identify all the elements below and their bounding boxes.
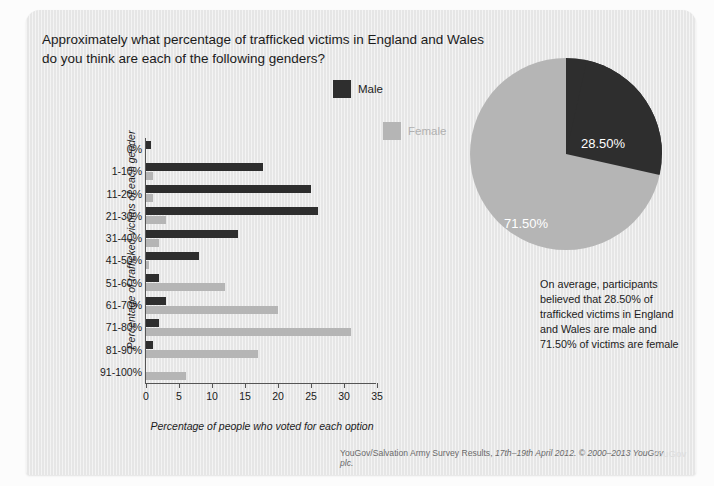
bar-male: [146, 163, 263, 171]
note-line-3: trafficked victims in England: [540, 307, 700, 322]
legend-swatch-male-icon: [333, 80, 351, 98]
pie-label-male: 28.50%: [581, 136, 625, 151]
x-axis-tick-label: 15: [239, 390, 251, 402]
y-axis-tick-label: 0%: [32, 144, 142, 154]
note-line-2: believed that 28.50% of: [540, 292, 700, 307]
source-attribution: YouGov/Salvation Army Survey Results, 17…: [340, 448, 670, 468]
bar-chart: Percentage of trafficked victims of each…: [64, 138, 394, 438]
y-axis-tick-label: 81-90%: [32, 345, 142, 355]
bar-female: [146, 194, 153, 202]
summary-note: On average, participants believed that 2…: [540, 277, 700, 352]
note-line-5: 71.50% of victims are female: [540, 337, 700, 352]
bar-male: [146, 252, 199, 260]
bar-female: [146, 283, 225, 291]
x-axis-tick-label: 25: [305, 390, 317, 402]
question-line-1: Approximately what percentage of traffic…: [42, 30, 512, 49]
bar-female: [146, 328, 351, 336]
y-axis-tick-label: 11-20%: [32, 189, 142, 199]
question-line-2: do you think are each of the following g…: [42, 49, 512, 68]
y-axis-tick-label: 91-100%: [32, 367, 142, 377]
x-axis-tick: [344, 383, 345, 388]
x-axis-tick-label: 35: [371, 390, 383, 402]
bar-female: [146, 350, 258, 358]
note-line-1: On average, participants: [540, 277, 700, 292]
x-axis-tick: [146, 383, 147, 388]
y-axis-tick-label: 1-10%: [32, 166, 142, 176]
bar-male: [146, 141, 151, 149]
pie-circle: [470, 58, 662, 250]
x-axis-tick-label: 20: [272, 390, 284, 402]
y-axis-tick-label: 31-40%: [32, 233, 142, 243]
x-axis-tick-label: 30: [338, 390, 350, 402]
question-text: Approximately what percentage of traffic…: [42, 30, 512, 68]
bar-male: [146, 230, 238, 238]
y-axis-tick-label: 51-60%: [32, 278, 142, 288]
x-axis-tick: [179, 383, 180, 388]
source-prefix: YouGov/Salvation Army Survey Results,: [340, 448, 495, 458]
bar-male: [146, 274, 159, 282]
x-axis-tick: [278, 383, 279, 388]
legend-label-male: Male: [358, 83, 383, 95]
bar-female: [146, 172, 153, 180]
y-axis-tick-label: 61-70%: [32, 300, 142, 310]
watermark: YouGov: [652, 449, 687, 459]
y-axis-tick-label: 21-30%: [32, 211, 142, 221]
x-axis-tick-label: 0: [143, 390, 149, 402]
x-axis-tick-label: 10: [206, 390, 218, 402]
bar-female: [146, 261, 149, 269]
x-axis-tick: [377, 383, 378, 388]
bar-male: [146, 207, 318, 215]
bar-male: [146, 341, 153, 349]
y-axis-tick-label: 41-50%: [32, 255, 142, 265]
note-line-4: and Wales are male and: [540, 322, 700, 337]
legend-item-male: Male: [333, 80, 383, 98]
bar-male: [146, 297, 166, 305]
bar-female: [146, 306, 278, 314]
bar-male: [146, 319, 159, 327]
pie-label-female: 71.50%: [504, 216, 548, 231]
bar-male: [146, 185, 311, 193]
x-axis-tick: [212, 383, 213, 388]
bar-female: [146, 372, 186, 380]
x-axis-title: Percentage of people who voted for each …: [146, 420, 378, 432]
bar-female: [146, 239, 159, 247]
x-axis-tick: [311, 383, 312, 388]
x-axis-tick-label: 5: [176, 390, 182, 402]
pie-chart: 28.50% 71.50%: [470, 58, 662, 250]
legend-label-female: Female: [408, 125, 446, 137]
chart-screenshot: Approximately what percentage of traffic…: [0, 0, 714, 486]
y-axis-tick-label: 71-80%: [32, 322, 142, 332]
x-axis-tick: [245, 383, 246, 388]
bar-female: [146, 216, 166, 224]
